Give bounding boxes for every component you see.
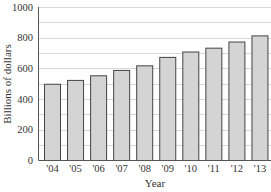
- x-tick-label: '11: [208, 163, 220, 174]
- x-tick-label: '09: [162, 163, 174, 174]
- y-tick-label: 800: [17, 32, 33, 43]
- bar: [45, 84, 61, 160]
- bar: [137, 66, 153, 161]
- x-tick-labels: '04'05'06'07'08'09'10'11'12'13: [46, 163, 266, 174]
- bar: [183, 52, 199, 160]
- x-tick-label: '06: [92, 163, 104, 174]
- bar-chart: 02004006008001000 '04'05'06'07'08'09'10'…: [0, 0, 271, 192]
- bar: [252, 36, 268, 161]
- x-axis-label: Year: [145, 177, 166, 189]
- y-tick-label: 600: [17, 63, 33, 74]
- bar: [206, 48, 222, 160]
- y-axis-label: Billions of dollars: [1, 44, 13, 123]
- bar: [229, 42, 245, 160]
- bars: [45, 36, 268, 161]
- x-tick-label: '08: [138, 163, 150, 174]
- x-tick-label: '13: [254, 163, 266, 174]
- x-tick-label: '10: [185, 163, 197, 174]
- bar: [160, 57, 176, 160]
- y-tick-label: 400: [17, 94, 33, 105]
- bar: [68, 80, 84, 160]
- bar: [91, 76, 107, 161]
- y-tick-label: 200: [17, 124, 33, 135]
- x-tick-label: '04: [46, 163, 59, 174]
- bar: [114, 70, 130, 160]
- y-tick-label: 0: [28, 155, 33, 166]
- x-tick-label: '12: [231, 163, 243, 174]
- x-tick-label: '07: [115, 163, 127, 174]
- y-tick-label: 1000: [12, 2, 33, 13]
- x-tick-label: '05: [69, 163, 81, 174]
- y-tick-labels: 02004006008001000: [12, 2, 33, 167]
